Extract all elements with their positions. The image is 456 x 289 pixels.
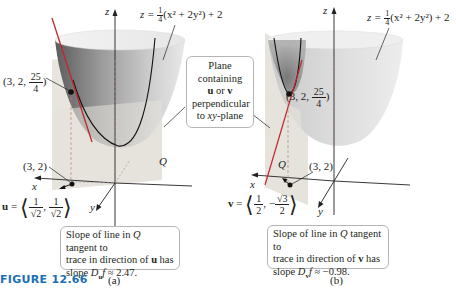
axis-label-x-a: x [32,180,37,192]
slope-b-line2: trace in direction of v has [273,253,383,266]
axis-label-y-a: y [90,201,95,213]
point-2d-label-a: (3, 2) [23,160,47,172]
plane-label-q-a: Q [159,155,167,167]
axis-label-y-b: y [318,205,323,217]
plane-callout: Plane containing u or v perpendicular to… [186,56,254,128]
panel-b-graphics [243,7,410,215]
slope-a-line2: trace in direction of u has [66,254,174,267]
point-3d-label-a: (3, 2, 254) [3,71,46,94]
point-3d-label-b: (3, 2, 254) [286,86,329,109]
axis-label-z-b: z [323,4,327,16]
caption-b: (b) [330,274,343,286]
slope-a-line1: Slope of line in Q tangent to [66,229,174,254]
axis-label-z-a: z [105,5,109,17]
point-2d-label-b: (3, 2) [309,160,333,172]
slope-b-line3: slope Dvf ≈ −0.98. [273,266,383,283]
slope-callout-b: Slope of line in Q tangent to trace in d… [267,225,389,269]
vector-v-label: v = ⟨12, −√32⟩ [228,193,298,216]
surface-equation-a: z = 14(x² + 2y²) + 2 [140,7,223,24]
eq-lhs: z = [140,8,157,20]
plane-label-q-b: Q [278,158,286,170]
slope-callout-a: Slope of line in Q tangent to trace in d… [60,226,180,270]
vector-u-label: u = ⟨1√2, 1√2⟩ [2,196,72,219]
figure-label: FIGURE 12.66 [0,273,88,286]
axis-label-x-b: x [250,178,255,190]
surface-equation-b: z = 14(x² + 2y²) + 2 [367,10,450,27]
eq-rhs: (x² + 2y²) + 2 [163,8,222,20]
caption-a: (a) [108,274,120,286]
slope-b-line1: Slope of line in Q tangent to [273,228,383,253]
